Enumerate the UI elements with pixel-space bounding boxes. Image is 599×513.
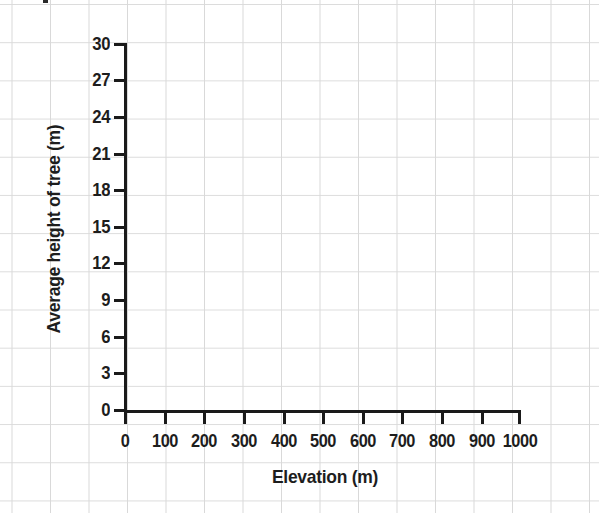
y-tick-value: 15 (64, 216, 110, 238)
clipped-text-remnant (43, 0, 48, 3)
x-tick-mark (124, 413, 127, 424)
x-tick-mark (203, 413, 206, 424)
y-tick-mark (114, 79, 124, 82)
y-tick-value: 12 (64, 252, 110, 274)
x-tick-mark (518, 413, 521, 424)
y-tick-label-9: 9 (58, 289, 110, 311)
y-tick-mark (114, 409, 124, 412)
y-tick-value: 18 (64, 179, 110, 201)
y-tick-mark (114, 299, 124, 302)
x-tick-mark (283, 413, 286, 424)
y-tick-value: 9 (64, 289, 110, 311)
y-tick-value: 27 (64, 69, 110, 91)
y-tick-label-18: 18 (58, 179, 110, 201)
y-tick-mark (114, 262, 124, 265)
graph-paper-worksheet: 0 3 6 9 12 15 18 21 24 27 30 0 (0, 0, 599, 513)
x-tick-mark (481, 413, 484, 424)
x-tick-mark (322, 413, 325, 424)
y-tick-label-6: 6 (58, 326, 110, 348)
y-tick-value: 30 (64, 33, 110, 55)
y-tick-value: 0 (64, 399, 110, 421)
y-axis-title: Average height of tree (m) (43, 111, 65, 347)
y-tick-mark (114, 153, 124, 156)
y-tick-label-27: 27 (58, 69, 110, 91)
x-axis-title: Elevation (m) (192, 466, 459, 488)
y-tick-label-30: 30 (58, 33, 110, 55)
y-tick-mark (114, 372, 124, 375)
y-tick-label-21: 21 (58, 143, 110, 165)
x-tick-value: 1000 (497, 430, 543, 452)
y-tick-mark (114, 226, 124, 229)
x-tick-mark (243, 413, 246, 424)
y-tick-label-24: 24 (58, 106, 110, 128)
y-tick-label-0: 0 (58, 399, 110, 421)
x-tick-mark (362, 413, 365, 424)
y-tick-label-3: 3 (58, 362, 110, 384)
x-tick-mark (401, 413, 404, 424)
y-tick-value: 6 (64, 326, 110, 348)
y-tick-mark (114, 336, 124, 339)
x-tick-mark (164, 413, 167, 424)
x-tick-label-1000: 1000 (493, 430, 547, 454)
plot-area[interactable] (127, 43, 521, 410)
y-tick-label-12: 12 (58, 252, 110, 274)
x-tick-mark (441, 413, 444, 424)
y-tick-mark (114, 116, 124, 119)
y-tick-value: 3 (64, 362, 110, 384)
y-tick-value: 21 (64, 143, 110, 165)
y-tick-value: 24 (64, 106, 110, 128)
y-tick-mark (114, 43, 124, 46)
y-tick-label-15: 15 (58, 216, 110, 238)
y-tick-mark (114, 189, 124, 192)
